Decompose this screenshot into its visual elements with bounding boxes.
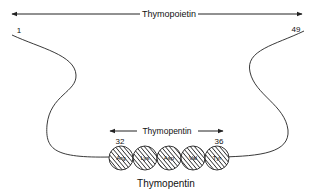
residue-bead-lys: Lys xyxy=(133,146,157,170)
residue-label: Asp xyxy=(164,155,175,161)
thymopoietin-label: Thymopoietin xyxy=(142,9,196,19)
right-peptide-chain xyxy=(222,31,304,157)
residue-bead-arg: Arg xyxy=(109,146,133,170)
residue-bead-tyr: Tyr xyxy=(205,146,229,170)
residue-number-32: 32 xyxy=(116,137,125,146)
thymopentin-arrow-label: Thymopentin xyxy=(142,126,191,136)
left-peptide-chain xyxy=(12,35,110,157)
residue-number-start: 1 xyxy=(17,26,22,35)
residue-number-36: 36 xyxy=(215,137,224,146)
residue-label: Val xyxy=(189,155,197,161)
residue-label: Tyr xyxy=(213,155,221,161)
thymopoietin-diagram: Thymopoietin 1 49 Thymopentin 32 36 Arg … xyxy=(0,0,313,194)
residue-bead-val: Val xyxy=(181,146,205,170)
residue-label: Arg xyxy=(116,155,125,161)
thymopentin-span-arrow: Thymopentin xyxy=(110,126,223,136)
residue-bead-asp: Asp xyxy=(157,146,181,170)
diagram-caption: Thymopentin xyxy=(137,178,195,189)
residue-label: Lys xyxy=(140,155,149,161)
thymopoietin-span-arrow: Thymopoietin xyxy=(12,9,302,19)
